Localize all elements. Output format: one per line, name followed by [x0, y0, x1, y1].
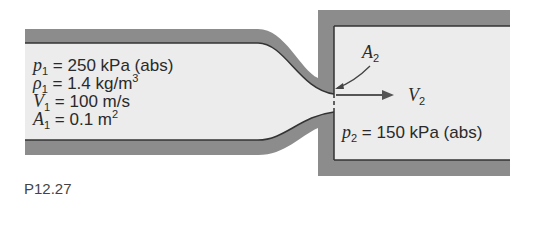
v1-symbol: V — [33, 91, 44, 111]
rho1-sup: 3 — [132, 72, 138, 84]
p2-symbol: p — [342, 122, 351, 142]
v2-sub: 2 — [419, 95, 425, 107]
a1-value: = 0.1 m — [50, 110, 112, 129]
p1-symbol: p — [33, 55, 42, 75]
rho1-symbol: ρ — [33, 73, 42, 93]
v2-symbol: V — [408, 85, 419, 105]
p2-sub: 2 — [351, 132, 357, 144]
a1-sub: 1 — [44, 119, 50, 131]
a1-symbol: A — [33, 109, 44, 129]
a2-symbol: A — [362, 42, 373, 62]
rho1-value: = 1.4 kg/m — [48, 74, 133, 93]
inlet-area-label: A1 = 0.1 m2 — [33, 111, 118, 130]
tank-pressure-label: p2 = 150 kPa (abs) — [342, 124, 482, 143]
v1-value: = 100 m/s — [50, 92, 130, 111]
throat-area-label: A2 — [362, 44, 379, 63]
a1-sup: 2 — [112, 108, 118, 120]
exit-velocity-label: V2 — [408, 87, 425, 106]
figure-caption: P12.27 — [24, 180, 72, 197]
a2-sub: 2 — [373, 52, 379, 64]
p2-value: = 150 kPa (abs) — [357, 123, 482, 142]
p1-value: = 250 kPa (abs) — [48, 56, 173, 75]
